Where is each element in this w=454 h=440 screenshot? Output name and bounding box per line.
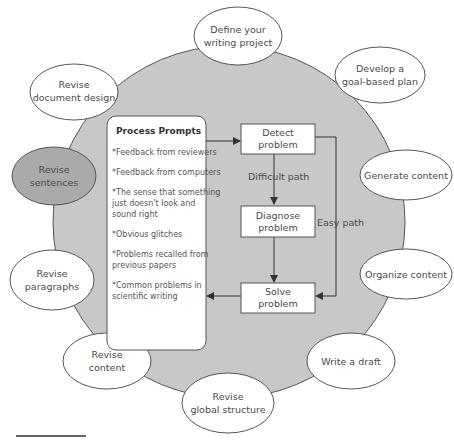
step-label-line2: paragraphs — [25, 281, 79, 292]
box-label-line2: problem — [258, 298, 297, 309]
step-write-draft[interactable]: Write a draft — [307, 333, 395, 389]
step-define-project[interactable]: Define your writing project — [194, 7, 282, 65]
step-label-line2: sentences — [30, 177, 78, 188]
prompt-item: *Feedback from reviewers — [112, 148, 217, 157]
step-label-line2: document design — [33, 92, 115, 103]
prompt-item: just doesn't look and — [111, 199, 195, 208]
prompt-item: sound right — [112, 210, 158, 219]
prompt-item: *Problems recalled from — [112, 250, 209, 259]
step-label-line2: global structure — [190, 404, 265, 415]
prompt-item: previous papers — [112, 261, 176, 270]
step-label-line2: writing project — [204, 37, 273, 48]
step-revise-sentences[interactable]: Revise sentences — [12, 147, 96, 205]
step-revise-document-design[interactable]: Revise document design — [30, 64, 118, 120]
step-revise-paragraphs[interactable]: Revise paragraphs — [10, 250, 94, 310]
solve-problem-box: Solve problem — [241, 283, 315, 313]
prompt-item: *The sense that something — [112, 188, 220, 197]
prompt-item: *Feedback from computers — [112, 168, 221, 177]
step-label-line2: goal-based plan — [342, 76, 418, 87]
step-label-line1: Write a draft — [321, 356, 381, 367]
box-label-line1: Diagnose — [256, 210, 301, 221]
step-generate-content[interactable]: Generate content — [360, 150, 452, 200]
step-label-line2: content — [89, 362, 126, 373]
box-label-line1: Solve — [265, 286, 291, 297]
box-label-line1: Detect — [262, 127, 294, 138]
easy-path-label: Easy path — [317, 217, 364, 228]
step-label-line1: Define your — [210, 24, 265, 35]
step-label-line1: Revise — [58, 79, 89, 90]
prompt-item: *Obvious glitches — [112, 230, 182, 239]
step-label-line1: Revise — [91, 349, 122, 360]
process-prompts-title: Process Prompts — [116, 126, 201, 136]
step-label-line1: Develop a — [356, 63, 404, 74]
step-revise-global-structure[interactable]: Revise global structure — [182, 373, 274, 433]
box-label-line2: problem — [258, 222, 297, 233]
step-label-line1: Organize content — [365, 269, 447, 280]
step-label-line1: Revise — [36, 268, 67, 279]
step-label-line1: Generate content — [364, 170, 448, 181]
detect-problem-box: Detect problem — [241, 124, 315, 154]
prompt-item: *Common problems in — [112, 281, 202, 290]
writing-process-diagram: Define your writing project Develop a go… — [0, 0, 454, 440]
prompt-item: scientific writing — [112, 292, 178, 301]
step-label-line1: Revise — [38, 164, 69, 175]
diagnose-problem-box: Diagnose problem — [241, 206, 315, 237]
step-develop-plan[interactable]: Develop a goal-based plan — [335, 47, 425, 103]
box-label-line2: problem — [258, 139, 297, 150]
process-prompts-box: Process Prompts *Feedback from reviewers… — [107, 116, 221, 350]
step-organize-content[interactable]: Organize content — [360, 249, 452, 299]
difficult-path-label: Difficult path — [248, 171, 309, 182]
step-label-line1: Revise — [212, 391, 243, 402]
